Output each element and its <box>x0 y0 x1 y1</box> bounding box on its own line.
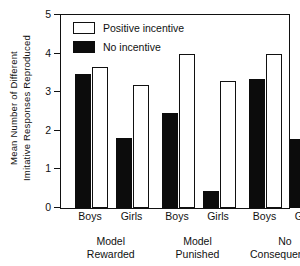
group-label-line-1: No <box>250 235 300 248</box>
y-axis-tick-label: 4 <box>45 47 51 59</box>
legend-swatch-filled-icon <box>73 41 95 53</box>
y-axis-tick: 3 <box>54 91 61 92</box>
x-axis-tick-label: Boys <box>165 210 188 222</box>
bar-no-incentive <box>290 139 300 208</box>
legend-swatch-open-icon <box>73 22 95 34</box>
y-axis-title: Mean Number of Different Imitative Respo… <box>0 0 40 215</box>
legend-item-positive-incentive: Positive incentive <box>73 19 184 36</box>
y-axis-tick: 2 <box>54 130 61 131</box>
bar-no-incentive <box>249 79 265 208</box>
bar-positive-incentive <box>133 85 149 208</box>
legend-label-no-incentive: No incentive <box>103 41 161 53</box>
y-axis-tick: 4 <box>54 53 61 54</box>
y-axis-tick: 5 <box>54 14 61 15</box>
bar-no-incentive <box>75 74 91 208</box>
group-label-line-2: Punished <box>176 248 220 261</box>
x-axis-group-label: NoConsequences <box>250 235 300 260</box>
group-label-line-2: Consequences <box>250 248 300 261</box>
bar-no-incentive <box>162 113 178 208</box>
chart-figure: Mean Number of Different Imitative Respo… <box>0 0 300 266</box>
legend-item-no-incentive: No incentive <box>73 38 184 55</box>
x-axis-group-label: ModelPunished <box>176 235 220 260</box>
group-label-line-1: Model <box>87 235 135 248</box>
y-axis-tick: 1 <box>54 168 61 169</box>
group-label-line-2: Rewarded <box>87 248 135 261</box>
plot-area: 012345 Positive incentive No incentive <box>60 14 290 209</box>
group-label-line-1: Model <box>176 235 220 248</box>
bar-positive-incentive <box>266 54 282 208</box>
bar-positive-incentive <box>92 67 108 208</box>
bar-no-incentive <box>203 191 219 208</box>
x-axis-tick-label: Boys <box>253 210 276 222</box>
y-axis-tick-label: 3 <box>45 85 51 97</box>
bar-positive-incentive <box>179 54 195 208</box>
bar-positive-incentive <box>220 81 236 208</box>
y-axis-title-line-2: Imitative Responses Reproduced <box>20 35 33 181</box>
chart-legend: Positive incentive No incentive <box>73 19 184 57</box>
y-axis-tick: 0 <box>54 207 61 208</box>
x-axis-tick-label: Girls <box>295 210 300 222</box>
x-axis-tick-label: Boys <box>78 210 101 222</box>
legend-label-positive-incentive: Positive incentive <box>103 22 184 34</box>
y-axis-tick-label: 0 <box>45 201 51 213</box>
y-axis-title-line-1: Mean Number of Different <box>8 51 19 165</box>
y-axis-tick-label: 5 <box>45 8 51 20</box>
x-axis-tick-label: Girls <box>207 210 229 222</box>
x-axis-tick-label: Girls <box>121 210 143 222</box>
bar-no-incentive <box>116 138 132 208</box>
x-axis-group-label: ModelRewarded <box>87 235 135 260</box>
y-axis-tick-label: 2 <box>45 124 51 136</box>
y-axis-tick-label: 1 <box>45 162 51 174</box>
